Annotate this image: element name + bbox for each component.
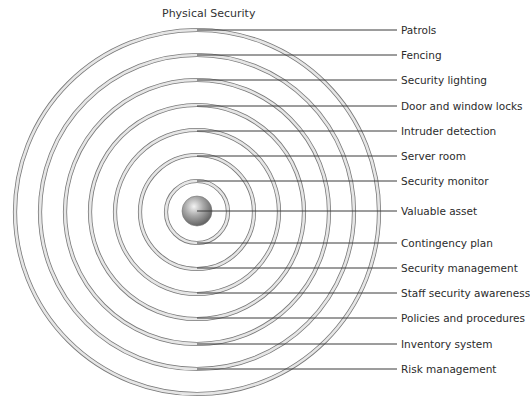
layer-label-security-lighting: Security lighting — [401, 74, 487, 86]
diagram-title: Physical Security — [162, 7, 255, 20]
layer-label-staff-security-awareness: Staff security awareness — [401, 287, 530, 299]
layer-label-intruder-detection: Intruder detection — [401, 125, 496, 137]
layer-label-security-monitor: Security monitor — [401, 175, 489, 187]
layer-label-valuable-asset: Valuable asset — [401, 205, 477, 217]
layer-label-contingency-plan: Contingency plan — [401, 237, 493, 249]
layer-label-server-room: Server room — [401, 150, 466, 162]
layer-label-inventory-system: Inventory system — [401, 338, 492, 350]
layer-label-fencing: Fencing — [401, 49, 442, 61]
layer-label-policies-and-procedures: Policies and procedures — [401, 312, 525, 324]
layer-label-door-and-window-locks: Door and window locks — [401, 100, 523, 112]
layer-label-security-management: Security management — [401, 262, 518, 274]
layer-label-risk-management: Risk management — [401, 363, 496, 375]
layer-label-patrols: Patrols — [401, 24, 436, 36]
